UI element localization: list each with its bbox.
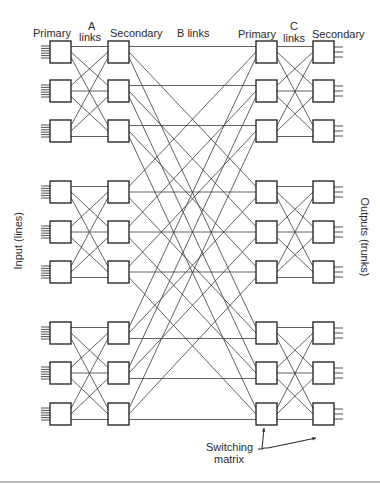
label-outputs-trunks: Outputs (trunks) (359, 198, 370, 278)
label-secondary-left: Secondary (110, 28, 163, 39)
bottom-divider (0, 481, 380, 483)
secondary-output-switch (313, 80, 334, 102)
secondary-input-switch (108, 80, 129, 102)
primary-output-switch (256, 221, 277, 243)
secondary-output-switch (313, 403, 334, 425)
primary-input-switch (50, 181, 71, 203)
secondary-output-switch (313, 322, 334, 344)
primary-input-switch (50, 403, 71, 425)
label-matrix: matrix (214, 454, 244, 465)
label-primary-right: Primary (238, 29, 276, 40)
secondary-input-switch (108, 322, 129, 344)
network-svg (0, 0, 380, 484)
label-c-links-letter: C (290, 21, 298, 32)
primary-output-switch (256, 261, 277, 283)
secondary-input-switch (108, 221, 129, 243)
secondary-output-switch (313, 120, 334, 142)
primary-input-switch (50, 221, 71, 243)
primary-input-switch (50, 322, 71, 344)
secondary-input-switch (108, 362, 129, 384)
secondary-output-switch (313, 261, 334, 283)
primary-output-switch (256, 120, 277, 142)
secondary-output-switch (313, 221, 334, 243)
primary-input-switch (50, 80, 71, 102)
primary-input-switch (50, 261, 71, 283)
secondary-input-switch (108, 261, 129, 283)
secondary-output-switch (313, 181, 334, 203)
label-c-links-word: links (283, 33, 305, 44)
secondary-output-switch (313, 362, 334, 384)
label-b-links: B links (177, 28, 209, 39)
primary-output-switch (256, 80, 277, 102)
label-switching: Switching (206, 442, 253, 453)
primary-input-switch (50, 41, 71, 63)
switching-matrix-pointer (258, 438, 316, 449)
primary-input-switch (50, 362, 71, 384)
label-input-lines: Input (lines) (13, 210, 24, 270)
label-a-links-word: links (79, 32, 101, 43)
switching-network-diagram: Primary A links Secondary B links Primar… (0, 0, 380, 484)
secondary-input-switch (108, 120, 129, 142)
label-primary-left: Primary (33, 28, 71, 39)
secondary-input-switch (108, 403, 129, 425)
primary-output-switch (256, 322, 277, 344)
primary-output-switch (256, 41, 277, 63)
primary-output-switch (256, 181, 277, 203)
label-secondary-right: Secondary (312, 29, 365, 40)
primary-input-switch (50, 120, 71, 142)
secondary-output-switch (313, 41, 334, 63)
primary-output-switch (256, 362, 277, 384)
secondary-input-switch (108, 181, 129, 203)
primary-output-switch (256, 403, 277, 425)
secondary-input-switch (108, 41, 129, 63)
